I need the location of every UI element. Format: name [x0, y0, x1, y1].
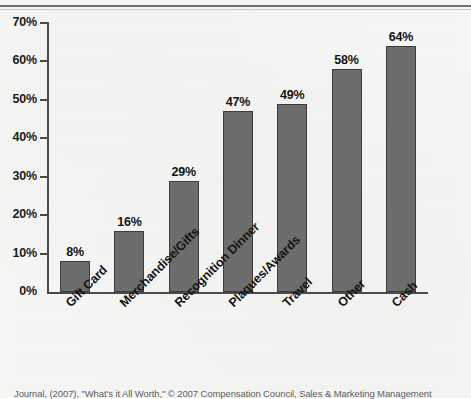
- bar-value-label: 8%: [51, 245, 99, 259]
- bar: [332, 69, 362, 292]
- y-axis-tick-mark: [40, 22, 49, 24]
- y-axis-tick-label: 10%: [0, 246, 37, 260]
- bar: [386, 46, 416, 292]
- y-axis-tick-label: 50%: [0, 92, 37, 106]
- y-axis-tick-mark: [40, 176, 49, 178]
- y-axis-tick-label: 20%: [0, 207, 37, 221]
- bar-value-label: 29%: [160, 165, 208, 179]
- y-axis-tick-mark: [40, 60, 49, 62]
- y-axis-tick-mark: [40, 137, 49, 139]
- bar-value-label: 16%: [105, 215, 153, 229]
- bar-value-label: 64%: [377, 30, 425, 44]
- bar-value-label: 49%: [268, 88, 316, 102]
- source-caption: Journal, (2007), "What's it All Worth," …: [14, 388, 464, 399]
- bar: [223, 111, 253, 292]
- y-axis-tick-mark: [40, 99, 49, 101]
- y-axis-tick-label: 30%: [0, 169, 37, 183]
- y-axis-tick-label: 60%: [0, 53, 37, 67]
- y-axis-tick-mark: [40, 253, 49, 255]
- y-axis-tick-label: 40%: [0, 130, 37, 144]
- y-axis-tick-label: 0%: [0, 284, 37, 298]
- y-axis-tick-mark: [40, 214, 49, 216]
- bar-value-label: 47%: [214, 95, 262, 109]
- y-axis-tick-label: 70%: [0, 15, 37, 29]
- bar-value-label: 58%: [323, 53, 371, 67]
